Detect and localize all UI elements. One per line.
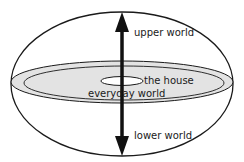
label-lower-world: lower world	[134, 131, 192, 141]
diagram-graphic	[0, 0, 244, 162]
cosmology-diagram: upper world the house everyday world low…	[0, 0, 244, 162]
label-the-house: the house	[144, 76, 194, 86]
label-everyday-world: everyday world	[88, 89, 165, 99]
label-upper-world: upper world	[134, 28, 194, 38]
